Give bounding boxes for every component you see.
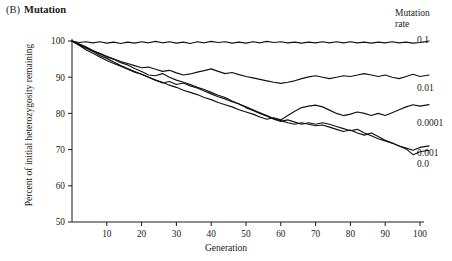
x-tick-label: 90 bbox=[381, 229, 391, 239]
x-tick-label: 50 bbox=[241, 229, 251, 239]
x-tick-label: 10 bbox=[102, 229, 112, 239]
legend-title-line2: rate bbox=[395, 19, 430, 30]
legend-label-0: 0.1 bbox=[417, 35, 429, 45]
x-tick-label: 70 bbox=[311, 229, 321, 239]
legend-label-2: 0.0001 bbox=[417, 118, 443, 128]
series-line-0.1 bbox=[72, 41, 429, 44]
legend-label-1: 0.01 bbox=[417, 83, 434, 93]
y-tick-label: 100 bbox=[51, 36, 65, 46]
legend-label-3: 0.001 bbox=[417, 148, 438, 158]
x-tick-label: 60 bbox=[276, 229, 286, 239]
series-line-0.001 bbox=[72, 41, 429, 150]
y-tick-label: 50 bbox=[56, 217, 66, 227]
x-tick-label: 100 bbox=[413, 229, 427, 239]
legend-title: Mutation rate bbox=[395, 8, 430, 30]
plot-area: 5060708090100102030405060708090100 bbox=[0, 0, 452, 261]
x-tick-label: 80 bbox=[346, 229, 356, 239]
x-tick-label: 40 bbox=[207, 229, 217, 239]
y-tick-label: 90 bbox=[56, 73, 66, 83]
legend-label-4: 0.0 bbox=[417, 159, 429, 169]
x-tick-label: 30 bbox=[172, 229, 182, 239]
chart-panel: (B)Mutation Percent of initial heterozyg… bbox=[0, 0, 452, 261]
series-line-0.01 bbox=[72, 41, 429, 83]
y-tick-label: 60 bbox=[56, 181, 66, 191]
legend-title-line1: Mutation bbox=[395, 8, 430, 19]
y-tick-label: 80 bbox=[56, 109, 66, 119]
x-tick-label: 20 bbox=[137, 229, 147, 239]
series-line-0.0001 bbox=[72, 41, 429, 120]
axis-layer: 5060708090100102030405060708090100 bbox=[51, 36, 427, 239]
series-layer bbox=[72, 41, 429, 155]
y-tick-label: 70 bbox=[56, 145, 66, 155]
